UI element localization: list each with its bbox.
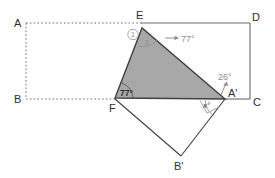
point-label-C: C — [253, 96, 261, 108]
point-label-A-prime: A' — [228, 87, 237, 99]
geometry-canvas: 1 2 A B C D E F A' B' 77° 77° 26° x° — [0, 0, 275, 178]
arrow-to-77-at-e-head — [175, 36, 180, 40]
point-label-E: E — [136, 9, 143, 21]
marker-one-label: 1 — [131, 31, 135, 38]
arrow-to-26-head — [223, 82, 228, 86]
marker-two-label: 2 — [145, 39, 149, 46]
segment-f-to-bprime — [115, 99, 181, 156]
angle-label-e-77: 77° — [181, 34, 195, 44]
point-label-D: D — [252, 11, 260, 23]
angle-label-f-77: 77° — [120, 88, 133, 98]
point-label-B-prime: B' — [174, 160, 183, 172]
point-label-A: A — [14, 17, 22, 29]
angle-label-x: x° — [202, 101, 211, 110]
geometry-figure: 1 2 A B C D E F A' B' 77° 77° 26° x° — [0, 0, 275, 178]
point-label-F: F — [109, 102, 116, 114]
point-label-B: B — [14, 93, 21, 105]
angle-label-26: 26° — [218, 72, 232, 82]
